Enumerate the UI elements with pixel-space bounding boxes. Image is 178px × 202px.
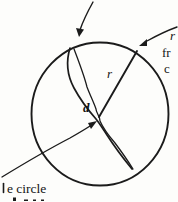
circle-diagram: r d r fr c e circle — [0, 0, 178, 201]
top-arrow-head-icon — [76, 28, 84, 37]
edge-text-line2: fr — [162, 45, 171, 60]
radius-line — [99, 51, 137, 117]
caption-fragment: e circle — [7, 181, 46, 196]
d-arrow-shaft — [2, 126, 90, 177]
clipped-text-marks — [13, 198, 44, 202]
crack-width-label: d — [83, 100, 90, 115]
scanned-figure: r d r fr c e circle — [0, 0, 178, 201]
edge-text-line3: c — [164, 61, 170, 76]
crack-left-edge — [68, 48, 132, 169]
radius-label: r — [107, 66, 113, 81]
top-right-arrow-head-icon — [139, 39, 147, 46]
d-arrow-head-icon — [88, 121, 97, 129]
edge-text-line1: r — [170, 28, 176, 43]
top-arrow-shaft — [80, 2, 93, 30]
